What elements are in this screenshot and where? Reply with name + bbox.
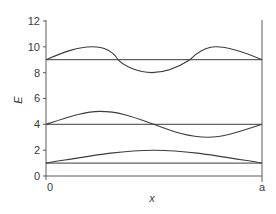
y-tick-label-6: 6 [34, 92, 40, 104]
energy-level-chart: 0 2 4 6 8 10 12 0 a x E [0, 0, 276, 214]
x-tick-label-0: 0 [47, 181, 53, 193]
y-tick-label-8: 8 [34, 67, 40, 79]
x-tick-label-a: a [259, 181, 266, 193]
y-axis-label: E [12, 96, 24, 104]
y-tick-label-2: 2 [34, 144, 40, 156]
wavefunction-1 [46, 150, 262, 163]
y-tick-label-4: 4 [34, 118, 40, 130]
y-tick-label-10: 10 [28, 41, 40, 53]
y-tick-label-12: 12 [28, 15, 40, 27]
y-tick-label-0: 0 [34, 170, 40, 182]
x-axis-label: x [148, 192, 155, 204]
